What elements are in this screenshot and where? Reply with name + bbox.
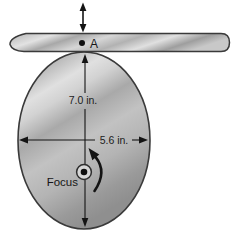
cam-diagram: A 7.0 in. 5.6 in. Focus <box>0 0 237 243</box>
focus-label: Focus <box>47 176 79 188</box>
horizontal-dimension-label: 5.6 in. <box>100 134 129 146</box>
oscillation-arrow-icon <box>80 3 87 33</box>
point-a-label: A <box>90 37 98 51</box>
focus-marker <box>77 165 92 180</box>
cam-diagram-canvas: A 7.0 in. 5.6 in. Focus <box>0 0 237 243</box>
follower-bar <box>10 34 230 52</box>
point-a-marker <box>79 40 85 46</box>
vertical-dimension-label: 7.0 in. <box>69 94 98 106</box>
